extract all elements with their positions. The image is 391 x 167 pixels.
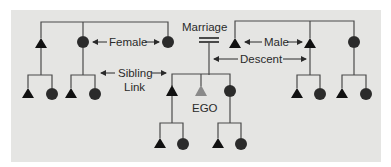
female-circle-icon (177, 138, 189, 150)
female-circle-icon (46, 88, 58, 100)
right-sibling-link-line (235, 21, 354, 38)
left-sibling-group (22, 22, 174, 100)
left-sibling-link-line (41, 22, 168, 38)
male-triangle-icon (229, 38, 241, 48)
female-circle-icon (89, 88, 101, 100)
female-circle-icon (235, 138, 247, 150)
female-circle-icon (224, 85, 236, 97)
male-triangle-icon (166, 85, 178, 96)
sibling-label: Sibling (118, 67, 153, 79)
male-triangle-icon (291, 88, 303, 98)
sibling-bracket (218, 123, 241, 138)
female-label: Female (109, 36, 147, 48)
male-triangle-icon (22, 88, 34, 98)
kinship-diagram: Female Marriage Male Descent Sibling Lin… (0, 0, 391, 167)
male-triangle-icon (304, 38, 316, 48)
female-circle-icon (77, 36, 89, 48)
male-triangle-icon (65, 88, 77, 98)
marriage-label: Marriage (182, 21, 227, 33)
sibling-bracket (342, 75, 366, 88)
ego-triangle-icon (195, 85, 207, 96)
legend-annotations: Female Marriage Male Descent Sibling Lin… (93, 21, 306, 114)
male-triangle-icon (35, 38, 47, 48)
male-label: Male (264, 36, 289, 48)
female-circle-icon (348, 36, 360, 48)
female-circle-icon (314, 88, 326, 100)
female-circle-icon (360, 88, 372, 100)
sibling-bracket (297, 75, 320, 88)
female-circle-icon (162, 36, 174, 48)
sibling-bracket (71, 75, 95, 88)
male-triangle-icon (154, 138, 166, 148)
link-label: Link (124, 81, 145, 93)
ego-family-group (154, 38, 247, 150)
descent-label: Descent (240, 53, 283, 65)
male-triangle-icon (212, 138, 224, 148)
sibling-bracket (28, 75, 52, 88)
sibling-bracket (160, 123, 183, 138)
ego-label: EGO (192, 102, 218, 114)
male-triangle-icon (336, 88, 348, 98)
